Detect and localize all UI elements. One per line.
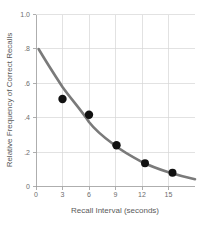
x-tick-label-3: 3 bbox=[61, 191, 65, 198]
data-point bbox=[85, 111, 93, 119]
y-tick-label-0.8: .8 bbox=[24, 45, 30, 52]
y-tick-label-0.4: .4 bbox=[24, 114, 30, 121]
x-tick-label-12: 12 bbox=[138, 191, 146, 198]
data-point bbox=[141, 159, 149, 167]
y-axis-title: Relative Frequency of Correct Recalls bbox=[5, 33, 14, 168]
y-tick-label-0.2: .2 bbox=[24, 149, 30, 156]
x-tick-label-9: 9 bbox=[114, 191, 118, 198]
y-tick-label-1.0: 1.0 bbox=[20, 11, 30, 18]
x-tick-label-0: 0 bbox=[34, 191, 38, 198]
y-tick-label-0.6: .6 bbox=[24, 80, 30, 87]
recall-decay-chart: 1.0 .8 .6 .4 .2 0 0 3 6 9 12 15 Recall I… bbox=[0, 0, 202, 228]
chart-figure: 1.0 .8 .6 .4 .2 0 0 3 6 9 12 15 Recall I… bbox=[0, 0, 202, 228]
y-tick-label-0: 0 bbox=[26, 183, 30, 190]
data-point bbox=[58, 95, 66, 103]
data-point bbox=[112, 141, 120, 149]
x-tick-label-15: 15 bbox=[165, 191, 173, 198]
data-point bbox=[169, 169, 177, 177]
x-axis-title: Recall Interval (seconds) bbox=[71, 206, 159, 215]
x-tick-label-6: 6 bbox=[87, 191, 91, 198]
